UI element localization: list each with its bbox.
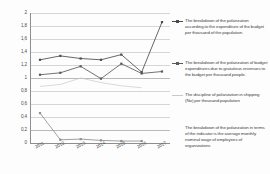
series-3 (40, 78, 142, 88)
chart-legend: The breakdown of the polarization accord… (172, 18, 268, 168)
y-tick-label: 0 (3, 141, 27, 146)
plot-wrapper (30, 13, 170, 143)
series-layer (30, 13, 170, 143)
y-tick-label: 0,4 (3, 115, 27, 120)
legend-line (172, 95, 183, 96)
legend-marker-icon (172, 93, 183, 99)
data-point-marker (80, 65, 82, 67)
legend-label: The breakdown of the polarization accord… (185, 18, 268, 36)
series-line (40, 113, 142, 141)
data-point-marker (100, 59, 102, 61)
y-tick-label: 1,6 (3, 37, 27, 42)
legend-dot (176, 20, 179, 23)
series-4 (39, 112, 143, 142)
data-point-marker (161, 70, 163, 72)
series-line (40, 22, 162, 72)
legend-entry-1[interactable]: The breakdown of the polarization accord… (172, 18, 268, 36)
data-point-marker (161, 21, 163, 23)
y-tick-label: 1,4 (3, 50, 27, 55)
series-line (40, 78, 142, 88)
legend-label: The breakdown of the polarization of bud… (185, 60, 268, 78)
data-point-marker (120, 63, 122, 65)
data-point-marker (39, 74, 41, 76)
data-point-marker (59, 72, 61, 74)
legend-dot (176, 62, 179, 65)
data-point-marker (80, 138, 82, 140)
legend-entry-2[interactable]: The breakdown of the polarization of bud… (172, 60, 268, 78)
y-tick-label: 1 (3, 76, 27, 81)
data-point-marker (80, 57, 82, 59)
series-1 (39, 21, 163, 73)
y-tick-label: 0,2 (3, 128, 27, 133)
legend-marker-icon (172, 126, 183, 132)
legend-label: The discipline of polarization in shippi… (185, 92, 268, 104)
data-point-marker (39, 112, 41, 114)
legend-entry-3[interactable]: The discipline of polarization in shippi… (172, 92, 268, 104)
x-axis-tick-labels: 2011201220132014201520162017 (30, 145, 170, 163)
legend-entry-4[interactable]: The breakdown of the polarization in ter… (172, 125, 268, 149)
y-tick-label: 1,2 (3, 63, 27, 68)
legend-marker-icon (172, 19, 183, 25)
data-point-marker (59, 55, 61, 57)
data-point-marker (39, 59, 41, 61)
chart-container: 21,81,61,41,210,80,60,40,20 201120122013… (0, 0, 270, 174)
y-tick-label: 0,6 (3, 102, 27, 107)
legend-label: The breakdown of the polarization in ter… (185, 125, 268, 149)
data-point-marker (100, 78, 102, 80)
y-tick-label: 0,8 (3, 89, 27, 94)
data-point-marker (141, 72, 143, 74)
data-point-marker (120, 54, 122, 56)
series-line (40, 64, 162, 79)
y-tick-label: 1,8 (3, 24, 27, 29)
plot-area (30, 13, 170, 143)
y-tick-label: 2 (3, 11, 27, 16)
legend-marker-icon (172, 61, 183, 67)
y-axis-tick-labels: 21,81,61,41,210,80,60,40,20 (0, 13, 27, 143)
